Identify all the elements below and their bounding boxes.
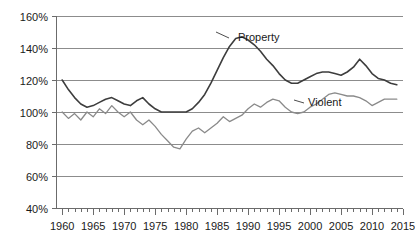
x-tick-label: 2005	[329, 220, 353, 232]
x-axis-ticks	[63, 209, 404, 215]
x-tick-label: 2000	[298, 220, 322, 232]
y-tick-label: 160%	[20, 11, 48, 23]
y-tick-label: 140%	[20, 43, 48, 55]
series-line-violent	[62, 93, 397, 149]
annotation-leader-property	[216, 32, 229, 38]
series-label-property: Property	[238, 31, 280, 43]
y-axis-labels: 40%60%80%100%120%140%160%	[20, 11, 48, 215]
y-axis-ticks	[52, 17, 56, 209]
x-tick-label: 1975	[143, 220, 167, 232]
x-tick-label: 1990	[236, 220, 260, 232]
x-tick-label: 1985	[205, 220, 229, 232]
y-tick-label: 100%	[20, 107, 48, 119]
data-series	[62, 37, 397, 149]
y-tick-label: 80%	[26, 139, 48, 151]
series-annotations: PropertyViolent	[216, 31, 341, 108]
y-tick-label: 60%	[26, 171, 48, 183]
x-tick-label: 2015	[391, 220, 415, 232]
x-tick-label: 2010	[360, 220, 384, 232]
y-tick-label: 40%	[26, 203, 48, 215]
x-tick-label: 1980	[174, 220, 198, 232]
crime-rate-index-chart: 40%60%80%100%120%140%160% 19601965197019…	[0, 0, 415, 245]
series-label-violent: Violent	[308, 96, 341, 108]
annotation-leader-violent	[294, 100, 304, 103]
x-tick-label: 1970	[112, 220, 136, 232]
y-tick-label: 120%	[20, 75, 48, 87]
x-tick-label: 1965	[81, 220, 105, 232]
chart-canvas: 40%60%80%100%120%140%160% 19601965197019…	[0, 0, 415, 245]
x-tick-label: 1995	[267, 220, 291, 232]
x-axis-labels: 1960196519701975198019851990199520002005…	[50, 220, 415, 232]
x-tick-label: 1960	[50, 220, 74, 232]
